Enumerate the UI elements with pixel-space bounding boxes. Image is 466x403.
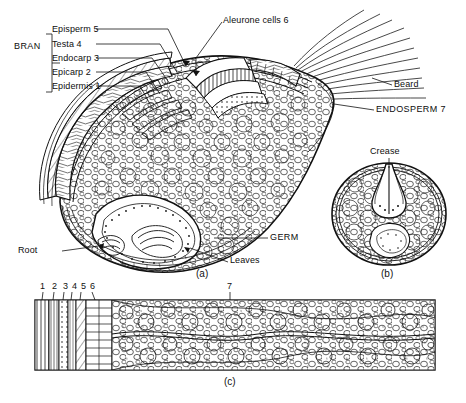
panel-c-number-2: 2 [52, 282, 57, 291]
layer-endocarp [59, 300, 68, 370]
label-episperm: Episperm 5 [52, 24, 99, 34]
label-testa: Testa 4 [52, 39, 82, 49]
panel-letter-b: (b) [381, 268, 393, 279]
panel-c-number-4: 4 [72, 282, 77, 291]
label-leaves: Leaves [230, 255, 260, 265]
panel-letter-a: (a) [196, 268, 208, 279]
label-beard: Beard [394, 79, 419, 89]
cross-section-germ [370, 223, 410, 257]
label-aleurone-cells: Aleurone cells 6 [223, 15, 289, 25]
panel-letter-c: (c) [224, 376, 236, 387]
label-epicarp: Epicarp 2 [52, 67, 91, 77]
panel-c-number-5: 5 [81, 282, 86, 291]
label-bran: BRAN [14, 41, 41, 51]
layer-testa [68, 300, 76, 370]
label-endosperm: ENDOSPERM 7 [376, 104, 446, 114]
panel-b-cross-section [332, 158, 446, 265]
label-epidermis: Epidermis 1 [52, 81, 101, 91]
label-endocarp: Endocarp 3 [52, 53, 99, 63]
panel-c-leaders [42, 292, 230, 300]
panel-c-number-3: 3 [63, 282, 68, 291]
layer-episperm [76, 300, 86, 370]
label-germ: GERM [270, 232, 299, 242]
label-root: Root [18, 245, 37, 255]
panel-c-number-6: 6 [90, 282, 95, 291]
panel-c-number-1: 1 [40, 282, 45, 291]
wheat-kernel-figure: Episperm 5 Testa 4 Endocarp 3 Epicarp 2 … [0, 0, 466, 403]
label-crease: Crease [370, 146, 400, 156]
panel-c-number-7: 7 [227, 282, 232, 291]
layer-epidermis [35, 300, 49, 370]
panel-c-bran-strip [35, 292, 435, 370]
